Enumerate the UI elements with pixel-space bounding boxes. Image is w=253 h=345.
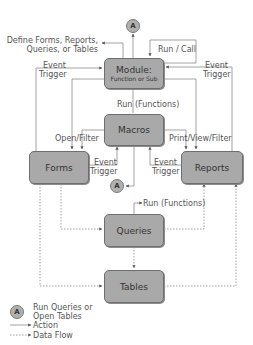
module-subtitle: Function or Sub <box>111 75 158 82</box>
reports-event-line1: Event <box>152 158 180 167</box>
reports-event-line2: Trigger <box>152 167 180 176</box>
connector-label: A <box>130 22 135 30</box>
legend-circle-label: A <box>14 308 19 316</box>
macros-title: Macros <box>118 125 150 135</box>
connector-a-middle: A <box>110 179 124 193</box>
forms-event-line2: Trigger <box>90 167 118 176</box>
reports-node: Reports <box>181 151 243 184</box>
legend-action-label: Action <box>33 321 58 330</box>
macros-node: Macros <box>104 114 164 146</box>
tables-node: Tables <box>104 270 164 303</box>
run-functions-macros-label: Run (Functions) <box>117 100 179 109</box>
open-filter-label: Open/Filter <box>55 134 99 143</box>
event-right-line1: Event <box>203 61 231 70</box>
define-label-line2: Queries, or Tables <box>4 45 98 54</box>
reports-event-trigger-label: Event Trigger <box>152 158 180 176</box>
tables-title: Tables <box>120 282 148 292</box>
forms-event-line1: Event <box>90 158 118 167</box>
legend-data-flow-label: Data Flow <box>33 331 73 340</box>
define-label-line1: Define Forms, Reports, <box>4 36 98 45</box>
print-view-filter-label: Print/View/Filter <box>169 134 232 143</box>
queries-title: Queries <box>117 226 152 236</box>
connector-a-top: A <box>126 19 140 33</box>
event-trigger-right-label: Event Trigger <box>203 61 231 79</box>
forms-title: Forms <box>45 163 72 173</box>
legend-connector-line2: Open Tables <box>33 312 93 321</box>
event-left-line1: Event <box>39 61 67 70</box>
queries-node: Queries <box>104 214 164 247</box>
diagram: A A Module: Function or Sub Macros Forms… <box>0 0 253 345</box>
event-left-line2: Trigger <box>39 70 67 79</box>
define-label: Define Forms, Reports, Queries, or Table… <box>4 36 98 54</box>
run-call-label: Run / Call <box>158 45 196 54</box>
event-trigger-left-label: Event Trigger <box>39 61 67 79</box>
module-node: Module: Function or Sub <box>104 58 164 89</box>
legend-connector-text: Run Queries or Open Tables <box>33 303 93 321</box>
event-right-line2: Trigger <box>203 70 231 79</box>
module-title: Module: <box>116 65 152 75</box>
connector-label: A <box>114 182 119 190</box>
reports-title: Reports <box>195 163 230 173</box>
forms-event-trigger-label: Event Trigger <box>90 158 118 176</box>
legend-connector-line1: Run Queries or <box>33 303 93 312</box>
legend-connector-icon: A <box>10 305 24 319</box>
forms-node: Forms <box>29 151 89 184</box>
run-functions-queries-label: Run (Functions) <box>143 199 205 208</box>
